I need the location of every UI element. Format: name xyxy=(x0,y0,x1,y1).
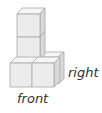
cube-figure xyxy=(0,0,102,113)
cube-tower-top xyxy=(17,8,45,37)
cube-bottom-right xyxy=(32,57,60,87)
front-view-label: front xyxy=(17,92,48,105)
right-view-label: right xyxy=(68,66,99,79)
